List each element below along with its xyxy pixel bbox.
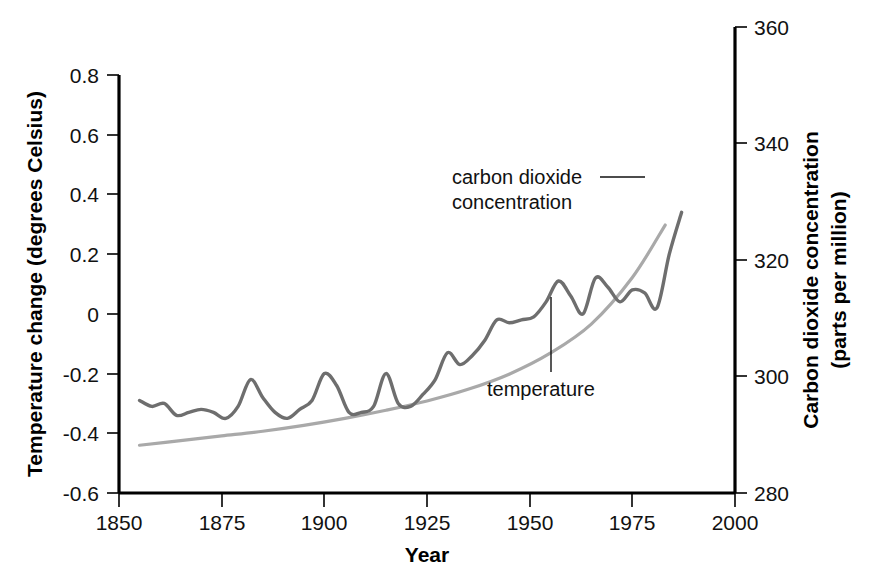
left-tick-label-0p2: 0.2 (70, 243, 99, 266)
x-tick-label-1950: 1950 (507, 511, 554, 534)
x-axis-tick-labels: 1850 1875 1900 1925 1950 1975 2000 (96, 511, 759, 534)
co2-annotation-label-line2: concentration (452, 191, 572, 213)
co2-annotation: carbon dioxide concentration (452, 166, 645, 213)
y2-axis-title-line2: (parts per million) (827, 191, 850, 368)
left-tick-label-neg0p2: -0.2 (63, 363, 99, 386)
left-axis-tick-labels: 0.8 0.6 0.4 0.2 0 -0.2 -0.4 -0.6 (63, 64, 100, 505)
right-tick-label-300: 300 (754, 365, 789, 388)
y2-axis-title-line1: Carbon dioxide concentration (799, 131, 822, 429)
climate-chart: 0.8 0.6 0.4 0.2 0 -0.2 -0.4 -0.6 360 340… (0, 0, 877, 572)
y-axis-title: Temperature change (degrees Celsius) (23, 91, 46, 477)
chart-container: 0.8 0.6 0.4 0.2 0 -0.2 -0.4 -0.6 360 340… (0, 0, 877, 572)
right-tick-label-360: 360 (754, 16, 789, 39)
x-tick-label-2000: 2000 (712, 511, 759, 534)
right-tick-label-320: 320 (754, 249, 789, 272)
left-tick-label-0p8: 0.8 (70, 64, 99, 87)
left-axis-ticks (107, 75, 119, 493)
co2-annotation-label-line1: carbon dioxide (452, 166, 582, 188)
x-axis-title: Year (405, 543, 449, 566)
temperature-annotation-label: temperature (487, 378, 595, 400)
series-line-carbon-dioxide (140, 225, 666, 445)
left-tick-label-0p6: 0.6 (70, 124, 99, 147)
right-tick-label-340: 340 (754, 132, 789, 155)
x-tick-label-1850: 1850 (96, 511, 143, 534)
right-tick-label-280: 280 (754, 482, 789, 505)
right-axis-ticks (727, 27, 747, 493)
x-tick-label-1925: 1925 (404, 511, 451, 534)
left-tick-label-neg0p6: -0.6 (63, 482, 99, 505)
series-group (140, 212, 682, 445)
left-tick-label-0p4: 0.4 (70, 183, 100, 206)
left-tick-label-0: 0 (87, 303, 99, 326)
right-axis-tick-labels: 360 340 320 300 280 (754, 16, 789, 505)
x-tick-label-1875: 1875 (199, 511, 246, 534)
x-axis-ticks (119, 493, 735, 507)
left-tick-label-neg0p4: -0.4 (63, 422, 100, 445)
x-tick-label-1900: 1900 (301, 511, 348, 534)
x-tick-label-1975: 1975 (609, 511, 656, 534)
